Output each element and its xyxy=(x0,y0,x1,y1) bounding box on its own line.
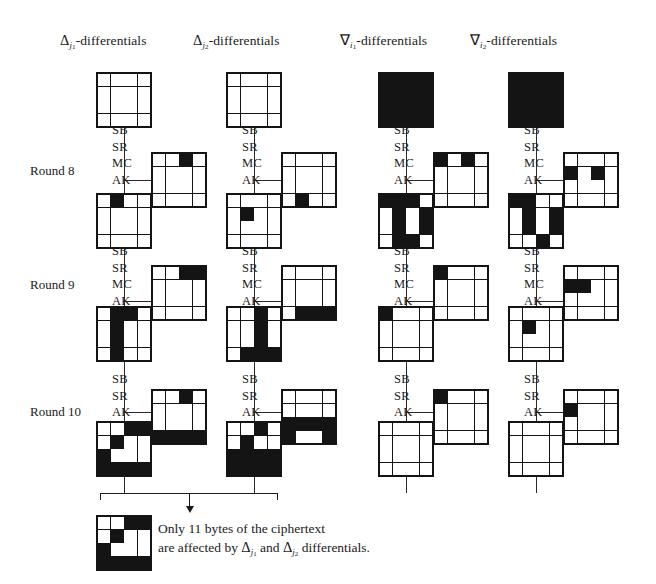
grid-cell xyxy=(605,417,617,429)
grid-cell xyxy=(406,308,418,320)
grid-cell xyxy=(254,208,266,220)
grid-cell xyxy=(536,334,548,346)
op-label-c3-r8-ak: AK xyxy=(394,174,413,186)
grid-cell xyxy=(268,436,280,448)
grid-cell xyxy=(523,221,535,233)
grid-cell xyxy=(536,195,548,207)
header-suffix: -differentials xyxy=(76,33,147,48)
grid-cell xyxy=(461,404,473,416)
grid-cell xyxy=(475,431,487,443)
op-label-c1-r8-ak: AK xyxy=(112,174,131,186)
grid-cell xyxy=(309,307,321,319)
roundkey-grid-c4-r10 xyxy=(563,389,619,445)
grid-cell xyxy=(550,308,562,320)
grid-cell xyxy=(420,235,432,247)
grid-cell xyxy=(565,267,577,279)
grid-cell xyxy=(124,530,136,542)
grid-cell xyxy=(98,100,110,112)
grid-cell xyxy=(283,154,295,166)
grid-cell xyxy=(179,293,191,305)
grid-cell xyxy=(254,423,266,435)
legend-frag-a: are affected by xyxy=(158,540,241,555)
grid-cell xyxy=(420,348,432,360)
grid-cell xyxy=(420,100,432,112)
grid-cell xyxy=(523,348,535,360)
grid-cell xyxy=(565,180,577,192)
op-label-c3-r9-sr: SR xyxy=(394,262,410,274)
grid-cell xyxy=(605,404,617,416)
grid-cell xyxy=(166,417,178,429)
op-label-c1-r10-sr: SR xyxy=(112,390,128,402)
grid-cell xyxy=(254,334,266,346)
op-label-c4-r8-sr: SR xyxy=(524,141,540,153)
legend-frag-d2s: Δ xyxy=(283,539,292,555)
grid-cell xyxy=(565,293,577,305)
grid-cell xyxy=(268,235,280,247)
grid-cell xyxy=(254,348,266,360)
grid-cell xyxy=(296,180,308,192)
grid-cell xyxy=(461,194,473,206)
op-label-c4-r8-mc: MC xyxy=(524,157,544,169)
grid-cell xyxy=(309,267,321,279)
grid-cell xyxy=(461,293,473,305)
grid-cell xyxy=(550,436,562,448)
op-label-c1-r10-ak: AK xyxy=(112,406,131,418)
grid-cell xyxy=(153,391,165,403)
grid-cell xyxy=(138,348,150,360)
grid-cell xyxy=(380,208,392,220)
grid-cell xyxy=(296,194,308,206)
grid-cell xyxy=(166,307,178,319)
state-grid-c1-input xyxy=(96,72,152,128)
grid-cell xyxy=(578,267,590,279)
grid-cell xyxy=(393,74,405,86)
grid-cell xyxy=(323,293,335,305)
grid-cell xyxy=(296,154,308,166)
grid-cell xyxy=(406,321,418,333)
grid-cell xyxy=(510,235,522,247)
grid-cell xyxy=(510,87,522,99)
grid-cell xyxy=(254,87,266,99)
grid-cell xyxy=(605,307,617,319)
grid-cell xyxy=(435,194,447,206)
grid-cell xyxy=(578,154,590,166)
grid-cell xyxy=(138,543,150,555)
grid-cell xyxy=(380,195,392,207)
grid-cell xyxy=(323,167,335,179)
grid-cell xyxy=(179,280,191,292)
grid-cell xyxy=(510,436,522,448)
grid-cell xyxy=(138,74,150,86)
grid-cell xyxy=(309,180,321,192)
grid-cell xyxy=(228,221,240,233)
grid-cell xyxy=(309,431,321,443)
grid-cell xyxy=(309,404,321,416)
grid-cell xyxy=(138,235,150,247)
op-label-c1-r8-mc: MC xyxy=(112,157,132,169)
grid-cell xyxy=(578,391,590,403)
grid-cell xyxy=(98,423,110,435)
grid-cell xyxy=(193,194,205,206)
grid-cell xyxy=(523,195,535,207)
grid-cell xyxy=(111,100,123,112)
roundkey-grid-c3-r9 xyxy=(433,265,489,321)
grid-cell xyxy=(406,348,418,360)
grid-cell xyxy=(380,308,392,320)
grid-cell xyxy=(138,195,150,207)
grid-cell xyxy=(193,417,205,429)
grid-cell xyxy=(435,154,447,166)
grid-cell xyxy=(393,348,405,360)
grid-cell xyxy=(475,391,487,403)
op-label-c1-r9-mc: MC xyxy=(112,278,132,290)
grid-cell xyxy=(193,431,205,443)
grid-cell xyxy=(448,404,460,416)
grid-cell xyxy=(124,195,136,207)
grid-cell xyxy=(420,308,432,320)
grid-cell xyxy=(510,321,522,333)
grid-cell xyxy=(138,87,150,99)
grid-cell xyxy=(435,180,447,192)
grid-cell xyxy=(406,449,418,461)
grid-cell xyxy=(283,431,295,443)
grid-cell xyxy=(605,194,617,206)
op-label-c2-r10-sr: SR xyxy=(242,390,258,402)
grid-cell xyxy=(448,194,460,206)
column-header-delta-j2: Δj2-differentials xyxy=(193,32,280,51)
